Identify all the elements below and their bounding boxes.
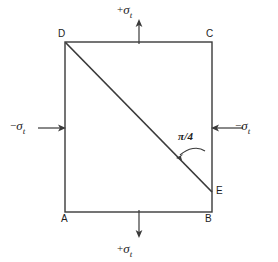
bottom-stress-subscript: t <box>130 249 133 259</box>
angle-label: π/4 <box>178 131 193 142</box>
top-stress-subscript: t <box>130 10 133 20</box>
vertex-label-C: C <box>206 29 214 39</box>
vertex-label-D: D <box>58 29 66 39</box>
left-stress-arrow <box>38 125 66 132</box>
top-stress-label: +σt <box>117 3 132 20</box>
left-stress-label: −σt <box>10 119 25 136</box>
square-element <box>65 42 212 212</box>
angle-leader-arrow <box>176 148 205 160</box>
left-stress-subscript: t <box>23 126 26 136</box>
vertex-label-A: A <box>61 214 68 224</box>
right-stress-subscript: t <box>248 126 251 136</box>
vertex-label-B: B <box>205 214 212 224</box>
right-stress-label: −σt <box>235 119 250 136</box>
vertex-label-E: E <box>216 186 223 196</box>
top-stress-arrow <box>136 19 143 44</box>
bottom-stress-label: +σt <box>117 242 132 259</box>
bottom-stress-arrow <box>136 210 143 238</box>
diagonal-line-DE <box>66 43 213 193</box>
